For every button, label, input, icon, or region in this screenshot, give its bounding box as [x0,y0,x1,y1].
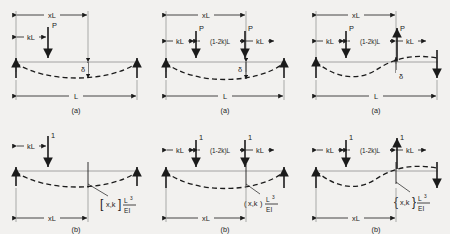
load-label-unit: 1 [51,131,55,140]
coef-args: x,k [106,200,116,209]
dimension-mid: (1-2k)L [198,36,242,46]
coef-denominator: EI [418,205,424,212]
coef-denominator: EI [266,206,272,213]
dimension-kL-right: kL [396,145,426,155]
panel-caption: (b) [372,225,381,234]
coef-open-bracket: ( [244,199,247,208]
dimension-label-xL: xL [352,11,360,20]
deflection-marker: δ [235,62,246,79]
coef-exponent: 3 [424,194,427,199]
dimension-label-xL: xL [352,214,360,223]
deflection-label: δ [399,72,403,81]
load-arrow-unit: 1 [48,131,55,167]
dimension-kL-left: kL [317,36,344,46]
dimension-mid: (1-2k)L [348,145,392,155]
coef-args: x,k [248,199,258,208]
dimension-label-mid: (1-2k)L [360,38,381,46]
dimension-label-mid: (1-2k)L [360,147,381,155]
coef-args: x,k [400,198,410,207]
coef-numerator: L [266,196,270,203]
deflection-curve [316,166,437,186]
dimension-label-L: L [223,92,227,101]
dimension-L: L [316,80,437,101]
deflection-marker: δ [396,57,407,81]
load-label-P-left: P [199,24,204,33]
leader-line [396,182,410,192]
load-label-unit-left: 1 [349,133,353,142]
dimension-label-xL: xL [48,11,56,20]
figure-sheet: xL kL P δ [0,0,450,234]
dimension-L: L [166,80,284,101]
dimension-label-L: L [74,92,78,101]
coef-numerator: L [418,195,422,202]
dimension-label-kL-left: kL [176,37,184,46]
coef-exponent: 3 [130,196,133,201]
dimension-label-kL-right: kL [406,37,414,46]
dimension-label-kL: kL [27,142,35,151]
dimension-mid: (1-2k)L [198,145,242,155]
deflection-curve [16,172,137,187]
panel-caption: (b) [221,225,230,234]
dimension-label-xL: xL [48,214,56,223]
deflection-coefficient: { x,k } L 3 EI [394,194,430,212]
deflection-curve [166,172,284,189]
load-label-P-right: P [248,24,253,33]
dimension-kL-left: kL [167,145,194,155]
coef-numerator: L [124,197,128,204]
dimension-label-kL-right: kL [256,37,264,46]
dimension-kL-right: kL [246,145,274,155]
panel-bottom-right: kL (1-2k)L kL 1 1 [298,122,450,234]
load-label-unit-right: 1 [400,133,404,142]
panel-caption: (a) [372,106,381,115]
deflection-marker: δ [78,62,88,78]
load-label-P-left: P [349,24,354,33]
panel-top-left: xL kL P δ [0,0,150,118]
deflection-coefficient: [ x,k ] L 3 EI [100,196,136,214]
dimension-L: L [16,80,137,101]
load-label-unit-right: 1 [248,133,252,142]
dimension-xL: xL [316,188,396,223]
coef-close-bracket: ) [260,199,262,208]
dimension-kL-left: kL [317,145,344,155]
deflection-coefficient: ( x,k ) L 3 EI [244,195,278,213]
dimension-kL-right: kL [246,36,274,46]
deflection-curve [16,63,137,78]
deflection-curve [316,56,437,76]
dimension-mid: (1-2k)L [348,36,392,46]
dimension-label-kL-right: kL [406,146,414,155]
dimension-kL: kL [17,32,46,42]
dimension-kL-left: kL [167,36,194,46]
coef-close-bracket: } [412,195,416,209]
load-label-P-right: P [400,24,405,33]
dimension-label-kL-left: kL [176,146,184,155]
dimension-label-kL: kL [27,33,35,42]
dimension-kL: kL [17,141,46,151]
load-arrow-P: P [48,21,57,58]
coef-exponent: 3 [272,195,275,200]
load-label-P: P [52,21,57,30]
panel-top-right: xL kL (1-2k)L kL P P [298,0,450,118]
dimension-kL-right: kL [396,36,426,46]
dimension-label-mid: (1-2k)L [210,38,231,46]
panel-caption: (a) [221,106,230,115]
deflection-label: δ [238,65,242,74]
dimension-label-xL: xL [202,214,210,223]
deflection-label: δ [81,65,85,74]
coef-open-bracket: [ [100,197,104,211]
dimension-label-L: L [374,92,378,101]
panel-caption: (a) [72,106,81,115]
coef-denominator: EI [124,207,130,214]
dimension-label-kL-left: kL [326,146,334,155]
panel-caption: (b) [72,225,81,234]
panel-top-middle: xL kL (1-2k)L kL P P [150,0,300,118]
load-label-unit-left: 1 [199,133,203,142]
dimension-label-mid: (1-2k)L [210,147,231,155]
deflection-curve [166,63,284,80]
dimension-xL: xL [166,188,246,223]
coef-close-bracket: ] [118,197,121,211]
panel-bottom-left: kL 1 [ x,k ] L 3 EI [0,122,150,234]
dimension-label-xL: xL [202,11,210,20]
dimension-label-kL-left: kL [326,37,334,46]
dimension-label-kL-right: kL [256,146,264,155]
panel-bottom-middle: kL (1-2k)L kL 1 1 [150,122,300,234]
